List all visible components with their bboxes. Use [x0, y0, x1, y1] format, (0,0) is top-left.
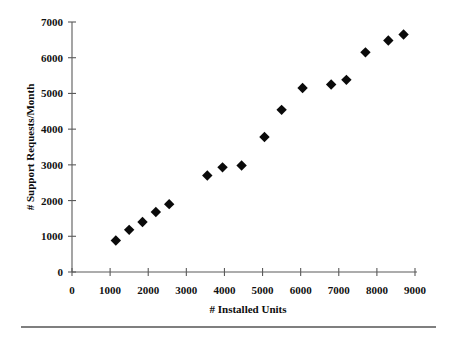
data-point-marker: [124, 225, 134, 235]
data-point-marker: [276, 105, 286, 115]
data-point-marker: [164, 199, 174, 209]
scatter-plot: 01000200030004000500060007000 0100020003…: [0, 0, 450, 341]
data-point-marker: [236, 160, 246, 170]
x-tick-label: 1000: [99, 284, 122, 296]
y-tick-label: 7000: [41, 16, 64, 28]
y-axis-title: # Support Requests/Month: [24, 84, 36, 211]
y-tick-label: 5000: [41, 87, 64, 99]
x-tick-label: 0: [69, 284, 75, 296]
x-tick-label: 4000: [213, 284, 236, 296]
data-point-marker: [360, 47, 370, 57]
x-tick-label: 7000: [328, 284, 351, 296]
chart-figure: 01000200030004000500060007000 0100020003…: [0, 0, 450, 341]
x-axis-title: # Installed Units: [209, 303, 287, 315]
x-tick-label: 9000: [404, 284, 427, 296]
data-point-marker: [341, 75, 351, 85]
x-tick-label: 8000: [366, 284, 389, 296]
y-tick-label: 0: [58, 266, 64, 278]
data-point-marker: [202, 170, 212, 180]
y-tick-label: 6000: [41, 52, 64, 64]
y-tick-label: 2000: [41, 195, 64, 207]
data-point-series: [111, 29, 409, 245]
x-tick-label: 6000: [290, 284, 313, 296]
data-point-marker: [326, 79, 336, 89]
x-tick-label: 5000: [252, 284, 275, 296]
data-point-marker: [137, 217, 147, 227]
x-axis-tick-labels: 0100020003000400050006000700080009000: [69, 284, 426, 296]
y-tick-label: 3000: [41, 159, 64, 171]
data-point-marker: [111, 235, 121, 245]
data-point-marker: [259, 132, 269, 142]
axes: [72, 22, 417, 272]
data-point-marker: [398, 29, 408, 39]
data-point-marker: [151, 207, 161, 217]
y-tick-label: 4000: [41, 123, 64, 135]
x-tick-label: 2000: [137, 284, 160, 296]
y-tick-label: 1000: [41, 230, 64, 242]
y-axis-tick-labels: 01000200030004000500060007000: [41, 16, 64, 278]
data-point-marker: [217, 162, 227, 172]
data-point-marker: [383, 35, 393, 45]
data-point-marker: [297, 83, 307, 93]
x-tick-label: 3000: [175, 284, 198, 296]
